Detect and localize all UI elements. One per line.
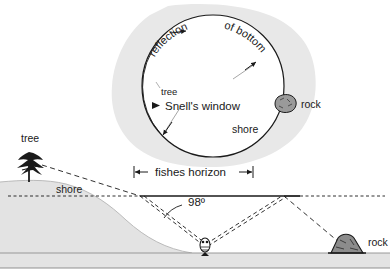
label-rock-lower: rock xyxy=(368,236,389,248)
angle-arc-98 xyxy=(164,205,182,218)
label-shore-lower: shore xyxy=(56,183,82,195)
rock-icon-upper xyxy=(275,95,296,113)
tree-icon xyxy=(17,152,44,182)
ray-right-refracted-a xyxy=(206,196,282,244)
circle-label-rock: rock xyxy=(301,98,322,110)
label-tree-lower: tree xyxy=(21,132,39,144)
label-fishes-horizon: fishes horizon xyxy=(155,166,226,178)
snells-window-diagram: reflection of bottom tree Snell's window… xyxy=(0,0,390,276)
diagram-canvas: reflection of bottom tree Snell's window… xyxy=(0,0,390,276)
lake-bottom xyxy=(0,253,390,268)
circle-label-shore: shore xyxy=(232,123,258,135)
ray-right-refracted-b xyxy=(208,197,286,246)
circle-label-tree: tree xyxy=(161,86,177,97)
circle-label-center: Snell's window xyxy=(165,100,241,112)
label-angle-98: 98º xyxy=(188,196,206,208)
fishes-horizon-measure: fishes horizon xyxy=(134,166,253,178)
ray-surface-to-rock xyxy=(284,196,340,243)
rock-icon-lower xyxy=(328,234,366,253)
